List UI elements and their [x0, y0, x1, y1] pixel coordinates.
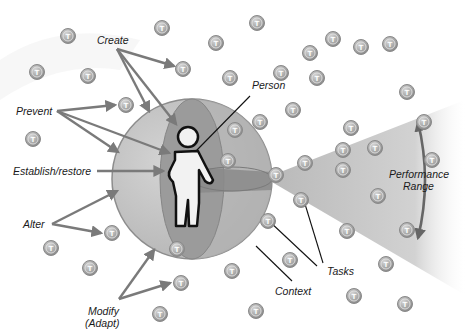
task-symbol: T: [110, 229, 115, 238]
task-symbol: T: [279, 69, 284, 78]
label-adapt: (Adapt): [85, 317, 119, 329]
task-symbol: T: [160, 24, 165, 33]
task-symbol: T: [341, 166, 346, 175]
task-circle: T: [298, 156, 313, 171]
task-symbol: T: [255, 19, 260, 28]
task-circle: T: [294, 193, 309, 208]
task-symbol: T: [31, 135, 36, 144]
task-circle: T: [326, 32, 341, 47]
task-circle: T: [209, 36, 224, 51]
task-symbol: T: [405, 88, 410, 97]
label-alter: Alter: [22, 218, 45, 230]
person-task-context-diagram: TTTTTTTTTTTTTTTTTTTTTTTTTTTTTTTTTTTTTTTT…: [0, 0, 465, 331]
task-circle: T: [398, 297, 413, 312]
task-symbol: T: [179, 279, 184, 288]
task-circle: T: [253, 115, 268, 130]
task-circle: T: [371, 189, 386, 204]
task-circle: T: [174, 276, 189, 291]
task-circle: T: [347, 289, 362, 304]
task-circle: T: [30, 65, 45, 80]
task-circle: T: [336, 163, 351, 178]
task-symbol: T: [274, 171, 279, 180]
task-symbol: T: [388, 40, 393, 49]
task-circle: T: [310, 71, 325, 86]
label-establish-restore: Establish/restore: [13, 165, 91, 177]
task-symbol: T: [49, 244, 54, 253]
label-context: Context: [275, 285, 312, 297]
task-symbol: T: [226, 157, 231, 166]
task-symbol: T: [308, 49, 313, 58]
task-circle: T: [81, 69, 96, 84]
label-range: Range: [403, 180, 434, 192]
task-symbol: T: [124, 101, 129, 110]
task-circle: T: [303, 46, 318, 61]
task-circle: T: [44, 241, 59, 256]
label-tasks: Tasks: [327, 265, 355, 277]
task-circle: T: [176, 62, 191, 77]
task-circle: T: [400, 85, 415, 100]
task-symbol: T: [175, 245, 180, 254]
task-circle: T: [83, 261, 98, 276]
label-create: Create: [97, 34, 129, 46]
task-circle: T: [383, 37, 398, 52]
task-symbol: T: [359, 43, 364, 52]
task-circle: T: [368, 141, 383, 156]
task-symbol: T: [299, 196, 304, 205]
task-symbol: T: [181, 65, 186, 74]
task-circle: T: [228, 123, 243, 138]
task-symbol: T: [331, 35, 336, 44]
task-circle: T: [425, 153, 440, 168]
task-symbol: T: [266, 217, 271, 226]
task-circle: T: [225, 264, 240, 279]
task-circle: T: [344, 121, 359, 136]
task-symbol: T: [352, 292, 357, 301]
task-circle: T: [286, 103, 301, 118]
task-symbol: T: [349, 124, 354, 133]
task-symbol: T: [158, 310, 163, 319]
task-symbol: T: [384, 260, 389, 269]
task-circle: T: [354, 40, 369, 55]
task-symbol: T: [254, 307, 259, 316]
task-circle: T: [119, 98, 134, 113]
task-circle: T: [400, 223, 415, 238]
task-symbol: T: [214, 39, 219, 48]
label-person: Person: [252, 79, 285, 91]
task-circle: T: [26, 132, 41, 147]
task-circle: T: [336, 143, 351, 158]
task-symbol: T: [233, 126, 238, 135]
task-circle: T: [223, 71, 238, 86]
label-prevent: Prevent: [16, 105, 53, 117]
task-symbol: T: [422, 118, 427, 127]
task-symbol: T: [303, 159, 308, 168]
label-performance: Performance: [389, 168, 449, 180]
task-circle: T: [417, 115, 432, 130]
task-symbol: T: [403, 300, 408, 309]
task-symbol: T: [315, 74, 320, 83]
task-circle: T: [249, 304, 264, 319]
task-symbol: T: [376, 192, 381, 201]
task-circle: T: [170, 242, 185, 257]
task-symbol: T: [35, 68, 40, 77]
label-modify: Modify: [88, 305, 120, 317]
task-symbol: T: [373, 144, 378, 153]
task-circle: T: [250, 16, 265, 31]
task-circle: T: [261, 214, 276, 229]
task-symbol: T: [258, 118, 263, 127]
task-circle: T: [153, 307, 168, 322]
task-symbol: T: [230, 267, 235, 276]
task-symbol: T: [66, 32, 71, 41]
task-circle: T: [61, 29, 76, 44]
task-symbol: T: [88, 264, 93, 273]
task-circle: T: [155, 21, 170, 36]
task-circle: T: [269, 168, 284, 183]
task-symbol: T: [405, 226, 410, 235]
task-symbol: T: [86, 72, 91, 81]
task-symbol: T: [228, 74, 233, 83]
task-symbol: T: [345, 227, 350, 236]
task-symbol: T: [430, 156, 435, 165]
task-symbol: T: [288, 256, 293, 265]
task-symbol: T: [341, 146, 346, 155]
task-circle: T: [340, 224, 355, 239]
task-circle: T: [283, 253, 298, 268]
task-circle: T: [105, 226, 120, 241]
